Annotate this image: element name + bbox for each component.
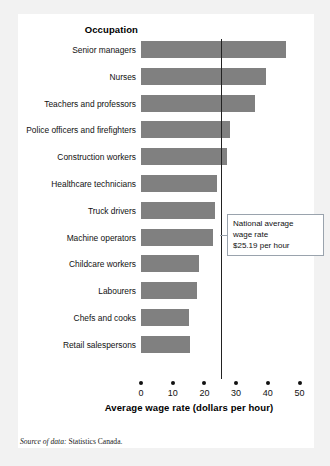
x-tick-label: 10 bbox=[158, 388, 188, 398]
category-label: Truck drivers bbox=[0, 206, 136, 216]
callout-leader-line bbox=[220, 235, 227, 236]
bar bbox=[141, 309, 189, 326]
x-tick-label: 40 bbox=[253, 388, 283, 398]
category-label: Labourers bbox=[0, 286, 136, 296]
x-tick-mark bbox=[298, 381, 302, 385]
bar bbox=[141, 255, 199, 272]
category-label: Construction workers bbox=[0, 152, 136, 162]
category-label: Senior managers bbox=[0, 45, 136, 55]
source-label: Source of data: bbox=[20, 437, 67, 446]
category-label: Childcare workers bbox=[0, 259, 136, 269]
bar bbox=[141, 336, 190, 353]
x-tick-mark bbox=[202, 381, 206, 385]
bar bbox=[141, 202, 215, 219]
x-tick-label: 0 bbox=[126, 388, 156, 398]
x-tick-mark bbox=[139, 381, 143, 385]
source-note: Source of data: Statistics Canada. bbox=[20, 437, 122, 446]
x-tick-label: 20 bbox=[189, 388, 219, 398]
x-axis-title: Average wage rate (dollars per hour) bbox=[60, 402, 318, 413]
bar bbox=[141, 229, 213, 246]
x-tick-mark bbox=[234, 381, 238, 385]
x-tick-label: 50 bbox=[285, 388, 315, 398]
category-label: Retail salespersons bbox=[0, 340, 136, 350]
category-label: Healthcare technicians bbox=[0, 179, 136, 189]
chart-figure: Occupation Senior managersNursesTeachers… bbox=[0, 0, 330, 466]
category-label: Nurses bbox=[0, 72, 136, 82]
plot-area: Occupation Senior managersNursesTeachers… bbox=[0, 0, 330, 466]
national-average-line bbox=[221, 39, 222, 379]
category-label: Police officers and firefighters bbox=[0, 125, 136, 135]
callout-line-2: wage rate bbox=[233, 229, 319, 240]
bar bbox=[141, 95, 255, 112]
category-label: Teachers and professors bbox=[0, 99, 136, 109]
bar bbox=[141, 282, 197, 299]
bar bbox=[141, 175, 217, 192]
callout-line-1: National average bbox=[233, 218, 319, 229]
bar bbox=[141, 41, 286, 58]
x-tick-mark bbox=[171, 381, 175, 385]
bar bbox=[141, 121, 230, 138]
category-label: Machine operators bbox=[0, 233, 136, 243]
bar bbox=[141, 68, 266, 85]
category-label: Chefs and cooks bbox=[0, 313, 136, 323]
x-tick-mark bbox=[266, 381, 270, 385]
bar bbox=[141, 148, 227, 165]
callout-line-3: $25.19 per hour bbox=[233, 240, 319, 251]
source-value: Statistics Canada. bbox=[67, 437, 123, 446]
x-tick-label: 30 bbox=[221, 388, 251, 398]
national-average-callout: National average wage rate $25.19 per ho… bbox=[227, 214, 324, 256]
y-axis-title: Occupation bbox=[0, 24, 138, 35]
